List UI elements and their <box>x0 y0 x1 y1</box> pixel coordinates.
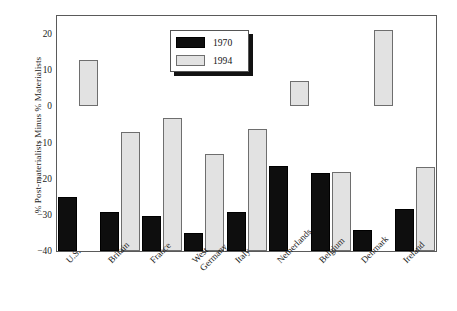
x-axis-labels: U.S.BritainFranceWestGermanyItalyNetherl… <box>0 252 457 311</box>
chart-legend: 1970 1994 <box>170 30 249 72</box>
legend-item-1994: 1994 <box>176 54 232 67</box>
y-tick-label: 10 <box>22 65 52 75</box>
legend-label-1970: 1970 <box>213 37 232 48</box>
legend-swatch-1970-icon <box>176 37 205 48</box>
bar-1970-ireland <box>395 209 414 251</box>
bar-1970-belgium <box>311 173 330 251</box>
bar-chart-figure: % Post-materialists Minus % Materialists… <box>0 0 457 311</box>
bar-1970-netherlands <box>269 166 288 251</box>
bar-1994-netherlands <box>290 81 309 106</box>
y-tick-label: −10 <box>22 138 52 148</box>
y-tick-label: −30 <box>22 210 52 220</box>
bar-1994-france <box>163 118 182 251</box>
legend-swatch-1994-icon <box>176 55 205 66</box>
bar-1994-denmark <box>374 30 393 106</box>
y-tick-label: 20 <box>22 29 52 39</box>
legend-label-1994: 1994 <box>213 55 232 66</box>
bar-1970-britain <box>100 212 119 251</box>
bar-1994-u-s- <box>79 60 98 106</box>
bar-1970-u-s- <box>58 197 77 251</box>
bar-1994-britain <box>121 132 140 251</box>
y-tick-label: 0 <box>22 101 52 111</box>
bar-1994-italy <box>248 129 267 251</box>
y-tick-label: −20 <box>22 174 52 184</box>
bar-1970-italy <box>227 212 246 251</box>
legend-item-1970: 1970 <box>176 36 232 49</box>
